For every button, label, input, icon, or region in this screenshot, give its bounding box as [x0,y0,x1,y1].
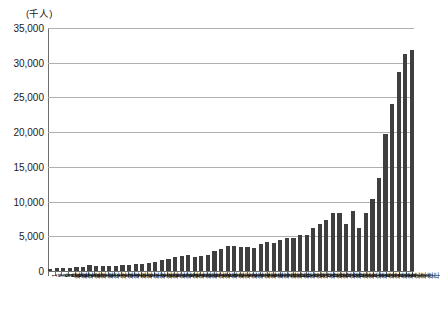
bar [364,213,368,271]
bar [383,134,387,271]
bar [186,255,190,271]
bar [397,72,401,271]
bar [305,235,309,271]
y-axis-tick-label: 5,000 [0,231,44,242]
bar [259,244,263,271]
y-axis-tick-label: 20,000 [0,127,44,138]
bar [173,257,177,271]
y-axis-tick-label: 0 [0,266,44,277]
y-axis-tick-label: 30,000 [0,57,44,68]
plot-area [48,28,414,271]
bar [245,247,249,271]
bar [212,251,216,271]
y-axis-tick-label: 25,000 [0,92,44,103]
bar [291,238,295,271]
bar [298,235,302,271]
bar [410,50,414,271]
y-axis-tick-labels: 35,00030,00025,00020,00015,00010,0005,00… [0,0,44,320]
bar [331,213,335,271]
bar [390,104,394,271]
x-axis-tick-labels: 1964年1965年1966年1967年1968年1969年1970年1971年… [48,276,414,320]
bar [265,242,269,271]
bar [140,264,144,271]
bar [193,257,197,271]
bar [370,199,374,271]
bar [199,256,203,271]
bar [153,262,157,271]
bar [272,243,276,272]
bar [278,240,282,271]
y-axis-tick-label: 15,000 [0,161,44,172]
y-axis-tick-label: 35,000 [0,23,44,34]
bar [285,238,289,271]
bar [166,259,170,271]
x-axis-tick-label: 2019年 [410,273,439,280]
bar [180,256,184,271]
bar [147,263,151,271]
bar [134,264,138,271]
bar [206,255,210,271]
bar [324,220,328,271]
x-axis-label-slot: 2019年 [407,276,414,320]
y-axis-tick-label: 10,000 [0,196,44,207]
bar-series [48,28,414,271]
bar [344,224,348,271]
bar [219,249,223,271]
bar [318,224,322,271]
bar [403,54,407,271]
bar [357,228,361,271]
bar [311,228,315,271]
bar [351,211,355,271]
bar [252,248,256,271]
bar [160,260,164,271]
bar [232,246,236,271]
bar [226,246,230,271]
bar [337,213,341,271]
bar [377,178,381,271]
bar [239,247,243,271]
